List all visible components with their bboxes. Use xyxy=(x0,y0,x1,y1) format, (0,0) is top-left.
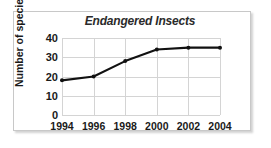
x-axis-tick-labels: 199419961998200020022004 xyxy=(0,0,271,148)
x-tick-label: 1998 xyxy=(112,121,138,132)
x-tick-label: 2004 xyxy=(207,121,233,132)
x-tick-label: 1996 xyxy=(81,121,107,132)
chart-figure: Endangered Insects Number of species 010… xyxy=(0,0,271,148)
x-tick-label: 2000 xyxy=(144,121,170,132)
x-tick-label: 2002 xyxy=(175,121,201,132)
x-tick-label: 1994 xyxy=(49,121,75,132)
